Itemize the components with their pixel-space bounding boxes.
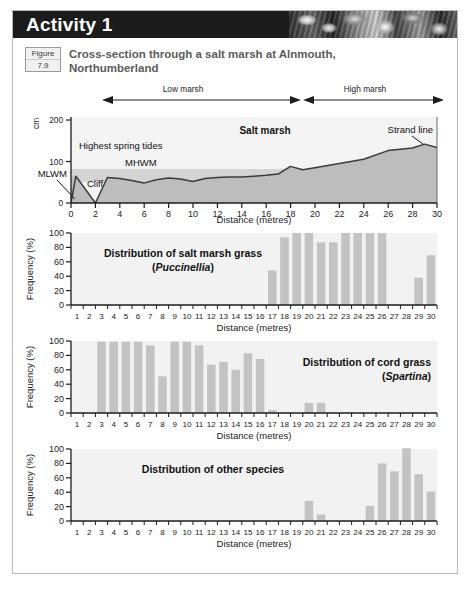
bar-spartina-6 — [134, 342, 143, 413]
bar-puccinellia-26 — [378, 233, 387, 305]
xtick-other-species-26: 26 — [378, 528, 388, 537]
annotation-strand-line: Strand line — [388, 124, 433, 135]
zone-arrow-svg: Low marsh High marsh — [13, 81, 457, 107]
other-species-svg: 020406080100 123456789101112131415161718… — [13, 441, 457, 553]
bar-puccinellia-25 — [366, 233, 375, 305]
bar-puccinellia-18 — [280, 237, 289, 305]
xtick-spartina-26: 26 — [378, 420, 388, 429]
xtick-spartina-30: 30 — [426, 420, 436, 429]
ytick-other-species-100: 100 — [49, 444, 64, 454]
bar-other-species-25 — [366, 506, 375, 521]
xtick-puccinellia-5: 5 — [124, 312, 129, 321]
bar-spartina-7 — [146, 345, 155, 413]
cs-ytick-200: 200 — [49, 115, 63, 125]
cs-xtick-20: 20 — [310, 209, 320, 219]
xtick-spartina-24: 24 — [353, 420, 363, 429]
x-ticks: 1234567891011121314151617181920212223242… — [71, 305, 437, 321]
annotation-mhwm: MHWM — [125, 157, 157, 168]
bar-spartina-15 — [244, 353, 253, 413]
cs-xtick-4: 4 — [117, 209, 122, 219]
xtick-spartina-28: 28 — [402, 420, 412, 429]
cs-xtick-6: 6 — [142, 209, 147, 219]
ytick-puccinellia-100: 100 — [49, 228, 64, 238]
xtick-spartina-3: 3 — [99, 420, 104, 429]
xtick-puccinellia-23: 23 — [341, 312, 351, 321]
xtick-spartina-14: 14 — [231, 420, 241, 429]
bar-puccinellia-20 — [305, 233, 314, 305]
bar-spartina-10 — [183, 342, 192, 413]
bar-spartina-20 — [305, 403, 314, 413]
xtick-other-species-21: 21 — [317, 528, 327, 537]
xtick-spartina-25: 25 — [365, 420, 375, 429]
xtick-spartina-15: 15 — [243, 420, 253, 429]
bar-spartina-3 — [97, 342, 106, 413]
x-axis-title: Distance (metres) — [217, 430, 292, 441]
xtick-puccinellia-29: 29 — [414, 312, 424, 321]
xtick-puccinellia-8: 8 — [160, 312, 165, 321]
xtick-puccinellia-2: 2 — [87, 312, 92, 321]
cs-xtick-10: 10 — [188, 209, 198, 219]
bar-other-species-29 — [414, 474, 423, 521]
cs-xtick-22: 22 — [334, 209, 344, 219]
xtick-spartina-21: 21 — [317, 420, 327, 429]
xtick-puccinellia-27: 27 — [390, 312, 400, 321]
xtick-puccinellia-3: 3 — [99, 312, 104, 321]
annotation-cliff: Cliff — [87, 178, 104, 189]
xtick-other-species-6: 6 — [136, 528, 141, 537]
xtick-puccinellia-1: 1 — [75, 312, 80, 321]
cs-xtick-30: 30 — [432, 209, 442, 219]
y-ticks: 020406080100 — [49, 228, 71, 310]
ytick-other-species-40: 40 — [54, 487, 64, 497]
cs-xtick-24: 24 — [359, 209, 369, 219]
xtick-other-species-22: 22 — [329, 528, 339, 537]
cs-ytick-100: 100 — [49, 157, 63, 167]
xtick-other-species-16: 16 — [256, 528, 266, 537]
bar-other-species-30 — [427, 491, 436, 521]
xtick-puccinellia-22: 22 — [329, 312, 339, 321]
xtick-other-species-29: 29 — [414, 528, 424, 537]
bar-spartina-5 — [122, 342, 131, 413]
figure-badge-number: 7.9 — [26, 59, 60, 71]
ytick-spartina-80: 80 — [54, 350, 64, 360]
bar-spartina-9 — [170, 342, 179, 413]
xtick-spartina-11: 11 — [195, 420, 204, 429]
high-marsh-arrow — [303, 96, 444, 104]
x-axis-title: Distance (metres) — [217, 322, 292, 333]
ytick-spartina-0: 0 — [59, 408, 64, 418]
xtick-other-species-5: 5 — [124, 528, 129, 537]
chart-spartina: 020406080100 123456789101112131415161718… — [13, 333, 457, 441]
xtick-other-species-14: 14 — [231, 528, 241, 537]
bar-puccinellia-21 — [317, 242, 326, 305]
bar-spartina-16 — [256, 359, 265, 413]
xtick-other-species-10: 10 — [182, 528, 192, 537]
puccinellia-svg: 020406080100 123456789101112131415161718… — [13, 225, 457, 333]
chart-title: Distribution of other species — [142, 463, 285, 475]
xtick-other-species-12: 12 — [207, 528, 217, 537]
xtick-spartina-6: 6 — [136, 420, 141, 429]
xtick-spartina-16: 16 — [256, 420, 266, 429]
xtick-puccinellia-25: 25 — [365, 312, 375, 321]
low-marsh-arrow — [102, 96, 301, 104]
ytick-puccinellia-40: 40 — [54, 271, 64, 281]
xtick-puccinellia-13: 13 — [219, 312, 229, 321]
xtick-puccinellia-12: 12 — [207, 312, 217, 321]
cross-section-y-ticks: 200 100 0 cm — [31, 115, 71, 208]
zone-label-low: Low marsh — [163, 84, 204, 94]
chart-subtitle: (Spartina) — [382, 370, 431, 382]
xtick-spartina-5: 5 — [124, 420, 129, 429]
bar-other-species-26 — [378, 463, 387, 521]
x-axis-title: Distance (metres) — [217, 538, 292, 549]
xtick-other-species-28: 28 — [402, 528, 412, 537]
bar-spartina-21 — [317, 403, 326, 413]
y-axis-title: Frequency (%) — [24, 238, 35, 300]
xtick-other-species-4: 4 — [111, 528, 116, 537]
beach-photo-strip — [289, 11, 457, 38]
xtick-spartina-19: 19 — [292, 420, 302, 429]
ytick-spartina-20: 20 — [54, 394, 64, 404]
cs-unit-cm: cm — [31, 118, 41, 129]
cs-ytick-0: 0 — [58, 198, 63, 208]
xtick-other-species-24: 24 — [353, 528, 363, 537]
annotation-salt-marsh: Salt marsh — [239, 125, 290, 136]
xtick-puccinellia-10: 10 — [182, 312, 192, 321]
spartina-svg: 020406080100 123456789101112131415161718… — [13, 333, 457, 441]
